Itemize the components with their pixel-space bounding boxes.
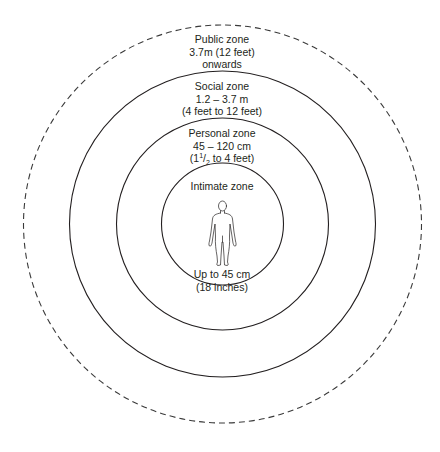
social-zone-title: Social zone [152, 80, 292, 93]
personal-zone-distance: 45 – 120 cm [152, 140, 292, 153]
human-figure-icon [209, 201, 236, 266]
intimate-distance-cm: Up to 45 cm [152, 268, 292, 281]
intimate-distance-label: Up to 45 cm (18 inches) [152, 268, 292, 293]
public-zone-distance: 3.7m (12 feet) [152, 46, 292, 59]
public-zone-title: Public zone [152, 33, 292, 46]
personal-zone-title: Personal zone [152, 127, 292, 140]
personal-zone-feet: (11/2 to 4 feet) [152, 152, 292, 165]
clipped-caption [0, 446, 440, 452]
social-zone-distance: 1.2 – 3.7 m [152, 93, 292, 106]
personal-zone-label: Personal zone 45 – 120 cm (11/2 to 4 fee… [152, 127, 292, 165]
social-zone-label: Social zone 1.2 – 3.7 m (4 feet to 12 fe… [152, 80, 292, 118]
intimate-zone-title: Intimate zone [152, 180, 292, 193]
intimate-distance-inches: (18 inches) [152, 281, 292, 294]
public-zone-note: onwards [152, 58, 292, 71]
intimate-zone-label: Intimate zone [152, 180, 292, 193]
public-zone-label: Public zone 3.7m (12 feet) onwards [152, 33, 292, 71]
social-zone-feet: (4 feet to 12 feet) [152, 105, 292, 118]
clipped-caption-line [0, 447, 440, 452]
proxemics-diagram: Public zone 3.7m (12 feet) onwards Socia… [0, 0, 440, 452]
